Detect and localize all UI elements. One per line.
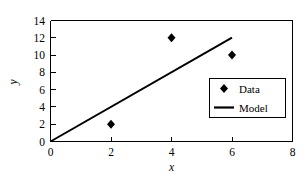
- legend[interactable]: Data Model: [210, 79, 286, 118]
- x-tick-labels: 0 2 4 6 8: [48, 146, 296, 158]
- y-axis-title: y: [7, 79, 20, 86]
- y-tick-label-8: 8: [39, 66, 45, 78]
- y-tick-label-10: 10: [34, 49, 46, 61]
- x-tick-label-2: 2: [108, 146, 114, 158]
- y-tick-label-6: 6: [39, 84, 45, 96]
- y-tick-labels: 0 2 4 6 8 10 12 14: [34, 15, 46, 148]
- x-tick-label-6: 6: [229, 146, 235, 158]
- data-point-marker: [107, 120, 115, 129]
- y-tick-label-14: 14: [34, 15, 46, 27]
- y-tick-label-0: 0: [39, 136, 45, 148]
- y-axis-ticks: [51, 21, 56, 142]
- scatter-plot: 0 2 4 6 8 10 12 14 0 2 4 6 8 x y: [0, 0, 307, 179]
- x-tick-label-8: 8: [290, 146, 296, 158]
- x-tick-label-0: 0: [48, 146, 54, 158]
- x-axis-ticks: [51, 137, 293, 142]
- x-axis-title: x: [168, 161, 175, 173]
- model-line-series: [51, 38, 233, 142]
- data-point-marker: [228, 51, 236, 60]
- legend-label-model[interactable]: Model: [239, 102, 268, 114]
- y-tick-label-4: 4: [39, 101, 45, 113]
- data-point-marker: [168, 33, 176, 42]
- x-tick-label-4: 4: [169, 146, 175, 158]
- y-tick-label-12: 12: [34, 32, 46, 44]
- chart-screenshot: 0 2 4 6 8 10 12 14 0 2 4 6 8 x y: [0, 0, 307, 179]
- y-tick-label-2: 2: [39, 118, 45, 130]
- legend-label-data[interactable]: Data: [239, 83, 260, 95]
